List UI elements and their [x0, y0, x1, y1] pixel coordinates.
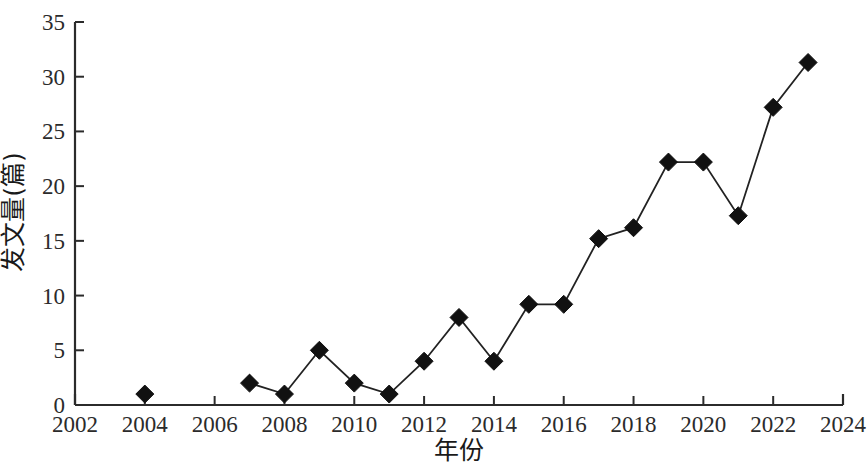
data-point-marker	[241, 374, 259, 392]
x-axis-tick-label: 2006	[192, 412, 238, 437]
data-point-marker	[136, 385, 154, 403]
data-point-marker	[729, 207, 747, 225]
data-series-layer	[136, 53, 817, 403]
x-axis-tick-label: 2010	[331, 412, 377, 437]
y-axis-tick-label: 20	[42, 174, 65, 199]
x-axis-tick-label: 2018	[611, 412, 657, 437]
x-axis-tick-label: 2014	[471, 412, 518, 437]
x-axis-tick-label: 2020	[680, 412, 726, 437]
x-axis-tick-label: 2002	[52, 412, 98, 437]
x-axis-tick-label: 2024	[820, 412, 867, 437]
data-point-marker	[799, 53, 817, 71]
x-axis-tick-label: 2004	[122, 412, 169, 437]
x-axis-tick-label: 2022	[750, 412, 796, 437]
y-axis-tick-label: 30	[42, 65, 65, 90]
axis-layer	[75, 22, 843, 405]
data-point-marker	[764, 98, 782, 116]
y-axis-tick-label: 5	[54, 338, 66, 363]
tick-label-layer: 0510152025303520022004200620082010201220…	[42, 10, 867, 437]
x-axis-tick-label: 2008	[261, 412, 307, 437]
y-axis-title: 发文量(篇)	[0, 152, 28, 272]
data-point-marker	[555, 295, 573, 313]
y-axis-tick-label: 10	[42, 284, 65, 309]
line-chart: 0510152025303520022004200620082010201220…	[0, 0, 868, 466]
y-axis-tick-label: 35	[42, 10, 65, 35]
data-point-marker	[590, 230, 608, 248]
y-axis-tick-label: 15	[42, 229, 65, 254]
x-axis-tick-label: 2016	[541, 412, 587, 437]
data-point-marker	[659, 153, 677, 171]
series-line	[250, 62, 809, 394]
data-point-marker	[485, 352, 503, 370]
data-point-marker	[694, 153, 712, 171]
data-point-marker	[625, 219, 643, 237]
x-axis-tick-label: 2012	[401, 412, 447, 437]
data-point-marker	[275, 385, 293, 403]
data-point-marker	[450, 308, 468, 326]
chart-container: 0510152025303520022004200620082010201220…	[0, 0, 868, 466]
y-axis-tick-label: 25	[42, 119, 65, 144]
x-axis-title: 年份	[434, 436, 484, 465]
data-point-marker	[520, 295, 538, 313]
